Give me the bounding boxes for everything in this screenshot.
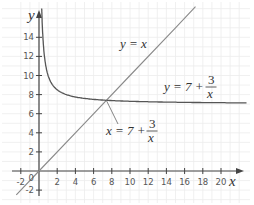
origin-label: 0 <box>29 173 34 183</box>
x-tick-label: 16 <box>179 177 190 187</box>
y-axis-label: y <box>26 7 35 23</box>
x-tick-label: 10 <box>125 177 136 187</box>
x-tick-label: 12 <box>143 177 154 187</box>
label-curve-equation: y = 7 + 3 x <box>162 72 217 101</box>
x-tick-label: 6 <box>91 177 96 187</box>
x-tick-label: 20 <box>216 177 227 187</box>
x-tick-label: 4 <box>73 177 78 187</box>
y-tick-label: 10 <box>23 71 34 81</box>
y-tick-label: 14 <box>23 32 34 42</box>
x-axis-arrow-icon <box>236 168 244 174</box>
y-tick-label: 12 <box>23 51 34 61</box>
label-intersection-denominator: x <box>147 130 154 145</box>
x-tick-label: 14 <box>161 177 172 187</box>
label-y-equals-x: y = x <box>118 36 147 51</box>
y-axis-arrow-icon <box>36 10 42 18</box>
y-tick-label: 4 <box>29 128 34 138</box>
label-intersection-numerator: 3 <box>149 116 156 131</box>
label-intersection-equation: x = 7 + 3 x <box>105 116 158 145</box>
curve-y-equals-7-plus-3-over-x <box>42 9 247 103</box>
y-tick-label: -2 <box>26 185 34 195</box>
x-tick-label: 18 <box>197 177 208 187</box>
y-tick-label: 6 <box>29 109 34 119</box>
chart: -22468101214161820-22468101214 y x 0 y =… <box>0 0 254 205</box>
x-tick-label: -2 <box>17 177 25 187</box>
x-axis-label: x <box>228 173 236 189</box>
x-tick-label: 8 <box>109 177 114 187</box>
label-curve-numerator: 3 <box>208 72 215 87</box>
x-tick-label: 2 <box>54 177 59 187</box>
label-intersection-lhs: x = 7 + <box>105 123 146 138</box>
y-tick-label: 8 <box>29 90 34 100</box>
label-curve-denominator: x <box>206 86 213 101</box>
y-tick-label: 2 <box>29 147 34 157</box>
label-curve-lhs: y = 7 + <box>162 79 204 94</box>
